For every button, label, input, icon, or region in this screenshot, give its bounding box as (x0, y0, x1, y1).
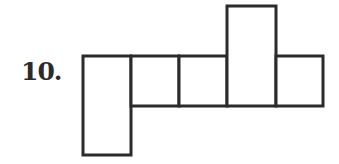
net-face-square-2 (179, 56, 227, 106)
cube-net-figure (0, 0, 339, 164)
net-face-left-tall (83, 56, 131, 155)
net-face-top-tall (227, 6, 276, 106)
net-face-square-1 (131, 56, 179, 106)
net-face-square-4 (276, 56, 323, 106)
